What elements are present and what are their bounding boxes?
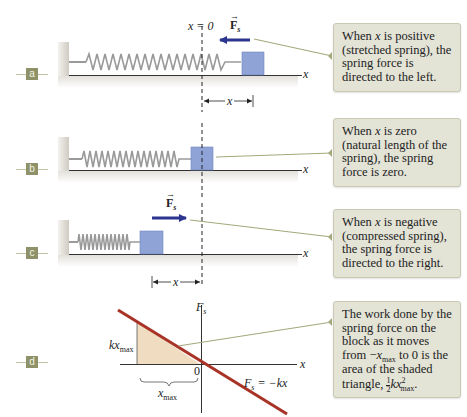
equation-label: Fs = −kx	[244, 376, 287, 391]
panel-d-graph	[118, 305, 297, 414]
vector-arrow-icon: →	[230, 11, 239, 21]
panel-label-c: c	[26, 247, 38, 259]
width-label: xmax	[158, 386, 177, 401]
displacement-text: x	[227, 94, 232, 108]
height-k-text: kx	[109, 338, 120, 352]
callout-text: When	[342, 215, 375, 229]
callout-kx: kx	[390, 377, 401, 391]
axis-label-c: x	[303, 246, 308, 261]
floor-shadow	[58, 76, 298, 88]
panel-label-a: a	[26, 68, 38, 80]
axis-label-text: x	[303, 67, 308, 81]
callout-minus: −	[369, 348, 376, 362]
origin-zero-label: 0	[194, 364, 200, 379]
x-axis-symbol: x	[300, 357, 305, 371]
wall	[58, 42, 69, 76]
origin-label: x = 0	[188, 19, 213, 34]
force-label-a: → Fs	[230, 18, 240, 33]
spring-compressed	[78, 234, 140, 250]
callout-d: The work done by the spring force on the…	[333, 301, 461, 398]
displacement-label-a: x	[225, 94, 234, 109]
callout-b: When x is zero (natural length of the sp…	[333, 118, 461, 187]
callout-text: When	[342, 29, 375, 43]
axis-label-b: x	[303, 162, 308, 177]
panel-a-scene	[58, 26, 302, 112]
vector-arrow-icon: →	[166, 189, 175, 199]
callout-text: When	[342, 124, 375, 138]
panel-label-d: d	[26, 356, 38, 368]
origin-label-text: x = 0	[188, 19, 213, 33]
axis-label-a: x	[303, 67, 308, 82]
callout-a: When x is positive (stretched spring), t…	[333, 23, 461, 92]
force-subscript: s	[237, 25, 240, 34]
panel-b-scene	[58, 123, 302, 198]
force-subscript: s	[173, 203, 176, 212]
block	[140, 231, 163, 254]
displacement-text: x	[173, 275, 178, 289]
width-subscript: max	[163, 393, 177, 402]
callout-period: .	[414, 377, 417, 391]
displacement-label-c: x	[171, 275, 180, 290]
height-subscript: max	[120, 345, 134, 354]
leader-pointers	[328, 52, 332, 326]
callout-subscript: max	[382, 355, 396, 364]
y-axis-subscript: s	[203, 307, 206, 316]
panel-label-b: b	[26, 163, 38, 175]
y-axis-label: Fs	[196, 300, 206, 315]
brace	[140, 378, 198, 386]
callout-c: When x is negative (compressed spring), …	[333, 209, 461, 278]
callout-subscript: max	[401, 384, 415, 393]
height-label: kxmax	[109, 338, 133, 353]
block	[242, 52, 264, 75]
axis-label-text: x	[303, 162, 308, 176]
axis-label-text: x	[303, 246, 308, 260]
x-axis-label: x	[300, 357, 305, 372]
spring-stretched	[86, 54, 241, 70]
equation-rhs: = −kx	[254, 376, 287, 390]
force-label-c: → Fs	[166, 196, 176, 211]
spring-natural	[82, 151, 191, 167]
